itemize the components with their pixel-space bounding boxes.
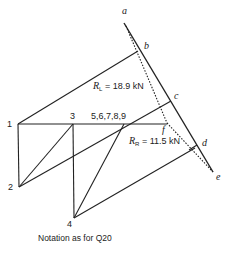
point-label-d: d: [202, 138, 207, 148]
node-label-2: 2: [8, 183, 13, 192]
node-label-3: 3: [70, 112, 75, 121]
diagram-canvas: [0, 0, 232, 253]
member-3-4: [73, 124, 74, 218]
reaction-left-label: RL = 18.9 kN: [93, 81, 144, 92]
node-label-4: 4: [67, 220, 72, 229]
reaction-right-label: RR = 11.5 kN: [129, 136, 180, 147]
point-label-f: f: [162, 125, 165, 135]
load-line-a-e: [124, 23, 213, 172]
node-label-1: 1: [7, 120, 12, 129]
member-2-3: [19, 124, 73, 187]
point-label-a: a: [122, 6, 127, 16]
node-label-5-9: 5,6,7,8,9: [91, 112, 126, 121]
point-label-b: b: [144, 41, 149, 51]
member-1-2: [18, 124, 19, 187]
caption: Notation as for Q20: [38, 234, 112, 243]
point-label-c: c: [174, 91, 178, 101]
point-label-e: e: [216, 172, 220, 182]
